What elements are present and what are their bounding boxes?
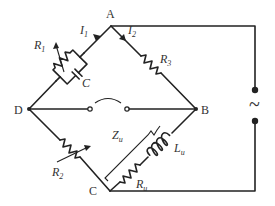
node-b-label: B [201, 103, 209, 117]
circuit-svg: ~ R1 C I1 I2 R3 [0, 0, 275, 206]
capacitor-c-label: C [82, 76, 91, 90]
zu-label: Zu [112, 128, 123, 144]
node-c-label: C [89, 184, 97, 198]
lu-label: Lu [173, 141, 185, 157]
r3-label: R3 [159, 52, 171, 68]
node-d-label: D [14, 103, 23, 117]
bridge-circuit-diagram: ~ R1 C I1 I2 R3 [0, 0, 275, 206]
node-a-label: A [106, 7, 115, 21]
ru-label: Ru [135, 177, 147, 193]
branch-d-c [29, 109, 110, 191]
ac-source-symbol: ~ [249, 93, 260, 115]
r2-label: R2 [51, 165, 63, 181]
i1-label: I1 [79, 23, 88, 39]
detector-branch [29, 99, 196, 112]
r1-label: R1 [33, 38, 45, 54]
